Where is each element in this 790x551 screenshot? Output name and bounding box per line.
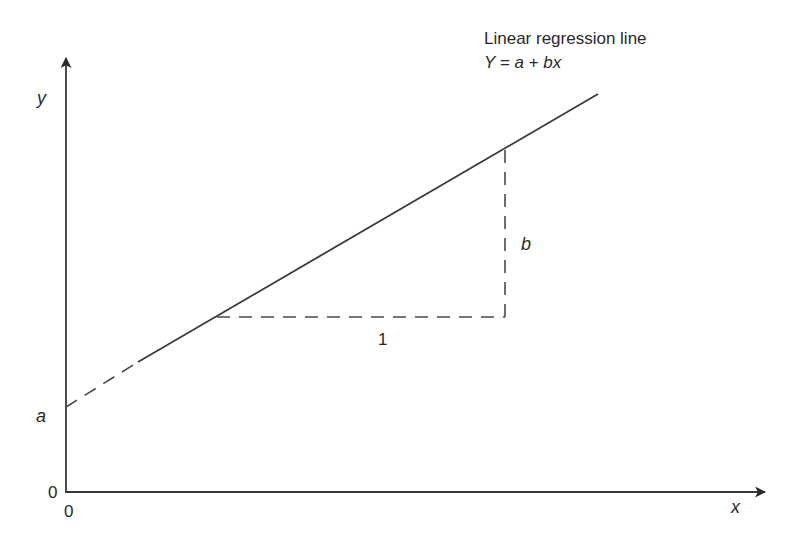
x-origin-label: 0 xyxy=(64,502,73,521)
regression-line-extension xyxy=(66,362,138,407)
intercept-label: a xyxy=(36,406,46,426)
y-origin-label: 0 xyxy=(48,483,57,502)
y-axis-label: y xyxy=(35,88,47,108)
title-label: Linear regression line xyxy=(484,29,647,48)
x-axis-label: x xyxy=(730,497,741,517)
slope-label: b xyxy=(521,234,531,254)
regression-diagram: Linear regression line Y = a + bx y x a … xyxy=(0,0,790,551)
regression-line xyxy=(138,94,598,362)
equation-label: Y = a + bx xyxy=(484,53,562,72)
run-label: 1 xyxy=(378,330,387,349)
